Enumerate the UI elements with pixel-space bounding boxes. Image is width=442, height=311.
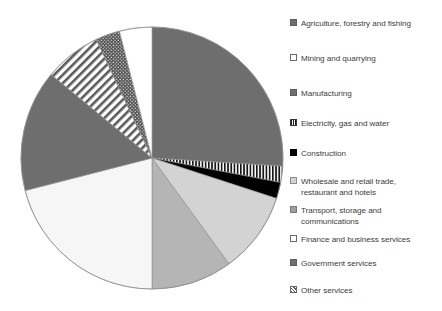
legend-item-label: Finance and business services <box>301 234 410 245</box>
legend-swatch-icon <box>290 286 297 293</box>
legend-swatch-icon <box>290 149 297 156</box>
pie-slice[interactable] <box>152 27 283 166</box>
legend-item[interactable]: Government services <box>290 258 377 269</box>
legend-item-label: Transport, storage and communications <box>301 205 381 227</box>
legend-item[interactable]: Other services <box>290 285 352 296</box>
legend-swatch-icon <box>290 259 297 266</box>
pie-chart-svg <box>0 0 292 311</box>
legend-item[interactable]: Transport, storage and communications <box>290 205 381 227</box>
chart-page: Agriculture, forestry and fishingMining … <box>0 0 442 311</box>
legend-item[interactable]: Finance and business services <box>290 234 410 245</box>
legend-item[interactable]: Mining and quarrying <box>290 53 376 64</box>
legend-swatch-icon <box>290 19 297 26</box>
legend-swatch-icon <box>290 206 297 213</box>
legend-item-label: Wholesale and retail trade, restaurant a… <box>301 176 396 198</box>
legend-item-label: Government services <box>301 258 377 269</box>
pie-slices-group <box>21 27 283 289</box>
legend-swatch-icon <box>290 119 297 126</box>
legend-item-label: Mining and quarrying <box>301 53 376 64</box>
pie-chart-area <box>0 0 292 311</box>
legend-item-label: Electricity, gas and water <box>301 118 389 129</box>
legend-item[interactable]: Agriculture, forestry and fishing <box>290 18 411 29</box>
legend-item[interactable]: Wholesale and retail trade, restaurant a… <box>290 176 396 198</box>
legend-item-label: Manufacturing <box>301 88 352 99</box>
legend-item-label: Other services <box>301 285 352 296</box>
legend-item-label: Agriculture, forestry and fishing <box>301 18 411 29</box>
legend-swatch-icon <box>290 235 297 242</box>
legend-swatch-icon <box>290 89 297 96</box>
legend-item-label: Construction <box>301 148 346 159</box>
legend-item[interactable]: Electricity, gas and water <box>290 118 389 129</box>
legend-item[interactable]: Construction <box>290 148 346 159</box>
legend-swatch-icon <box>290 177 297 184</box>
legend-item[interactable]: Manufacturing <box>290 88 352 99</box>
legend-swatch-icon <box>290 54 297 61</box>
chart-legend: Agriculture, forestry and fishingMining … <box>288 0 442 311</box>
